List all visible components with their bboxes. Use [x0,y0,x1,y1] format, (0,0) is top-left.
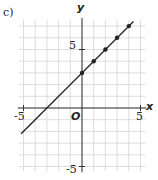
origin-label: O [71,110,80,123]
data-point [127,24,131,28]
data-point [115,36,119,40]
coordinate-plane [0,0,158,180]
y-axis-label: y [77,1,84,14]
axes [18,18,147,172]
panel-label: c) [3,6,13,19]
data-point [103,47,107,51]
y-tick-5: 5 [69,39,76,52]
data-point [92,59,96,63]
x-axis-label: x [146,100,153,113]
y-tick-neg5: -5 [66,163,77,176]
x-tick-neg5: -5 [14,110,25,123]
data-point [80,71,84,75]
x-tick-5: 5 [136,110,143,123]
